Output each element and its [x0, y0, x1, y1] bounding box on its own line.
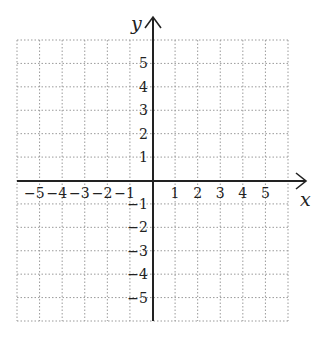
y-tick-label: −4: [127, 266, 148, 282]
x-tick-label: 5: [261, 185, 270, 201]
x-axis-label: x: [300, 188, 311, 210]
y-tick-label: 3: [139, 102, 148, 118]
x-tick-label: 2: [193, 185, 202, 201]
y-tick-label: 2: [139, 126, 148, 142]
x-tick-label: −5: [24, 185, 45, 201]
y-tick-label: 5: [139, 55, 148, 71]
x-tick-label: −3: [69, 185, 90, 201]
y-tick-label: 4: [139, 79, 148, 95]
y-tick-label: −1: [127, 196, 148, 212]
y-tick-label: −2: [127, 219, 148, 235]
y-tick-label: 1: [139, 149, 148, 165]
x-tick-label: −2: [92, 185, 113, 201]
y-tick-label: −3: [127, 243, 148, 259]
x-tick-label: 3: [216, 185, 225, 201]
y-axis-label: y: [130, 12, 142, 34]
y-tick-label: −5: [127, 290, 148, 306]
x-tick-label: 1: [171, 185, 180, 201]
coordinate-plane: x y −5−4−3−2−112345 54321−1−2−3−4−5: [0, 0, 335, 355]
x-tick-label: −4: [47, 185, 68, 201]
x-tick-label: 4: [238, 185, 247, 201]
